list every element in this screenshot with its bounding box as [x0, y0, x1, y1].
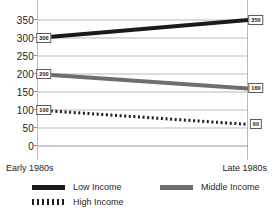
callout-middle-start: 200 [36, 69, 51, 79]
legend-item-middle-income: Middle Income [160, 182, 260, 192]
legend-item-low-income: Low Income [32, 182, 122, 192]
callout-low-start: 300 [36, 33, 51, 43]
x-axis: Early 1980s Late 1980s [0, 163, 275, 177]
callout-high-end: 60 [250, 119, 262, 129]
y-tick-200: 200 [17, 69, 34, 80]
series-lines [37, 0, 248, 160]
plot-area: 350 300 250 200 150 100 50 0 300 35 [0, 0, 275, 160]
series-line-low-income [37, 20, 248, 38]
series-line-high-income [37, 110, 248, 124]
legend-label-middle-income: Middle Income [201, 182, 260, 192]
y-tick-0: 0 [28, 141, 34, 152]
grid-area [37, 0, 248, 160]
line-chart: 350 300 250 200 150 100 50 0 300 35 [0, 0, 275, 212]
y-tick-100: 100 [17, 105, 34, 116]
legend: Low Income Middle Income High Income [0, 182, 275, 212]
legend-label-low-income: Low Income [73, 182, 122, 192]
y-tick-150: 150 [17, 87, 34, 98]
y-tick-250: 250 [17, 51, 34, 62]
y-axis: 350 300 250 200 150 100 50 0 [4, 0, 34, 160]
y-tick-50: 50 [22, 123, 34, 134]
legend-item-high-income: High Income [32, 197, 124, 207]
callout-low-end: 350 [248, 15, 263, 25]
series-line-middle-income [37, 74, 248, 88]
y-tick-350: 350 [17, 15, 34, 26]
legend-swatch-low-income [32, 185, 65, 190]
legend-swatch-middle-income [160, 185, 193, 190]
callout-middle-end: 160 [248, 83, 263, 93]
callout-high-start: 100 [36, 105, 51, 115]
x-label-early-1980s: Early 1980s [6, 163, 54, 173]
legend-label-high-income: High Income [73, 197, 124, 207]
x-label-late-1980s: Late 1980s [222, 163, 267, 173]
y-tick-300: 300 [17, 33, 34, 44]
legend-swatch-high-income [32, 199, 65, 205]
